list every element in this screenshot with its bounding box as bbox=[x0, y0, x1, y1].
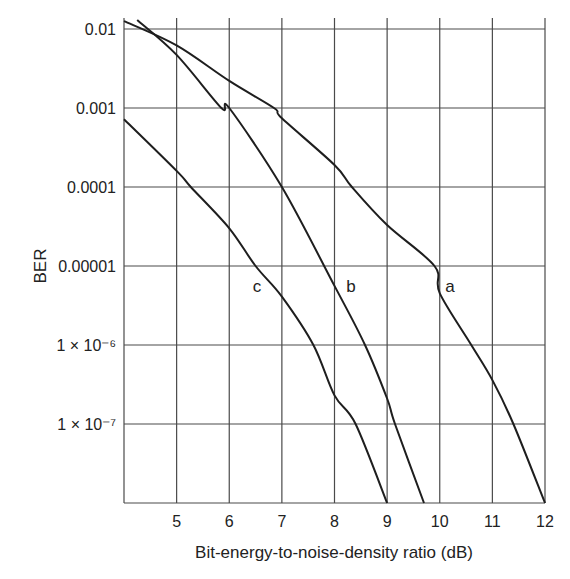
y-tick-label: 0.0001 bbox=[67, 179, 116, 196]
x-tick-label: 6 bbox=[225, 513, 234, 530]
curve-label-b: b bbox=[346, 277, 355, 296]
curve-label-c: c bbox=[253, 277, 262, 296]
x-tick-labels: 56789101112 bbox=[172, 513, 554, 530]
y-tick-label: 0.001 bbox=[76, 100, 116, 117]
curve-b bbox=[137, 20, 424, 503]
curve-label-a: a bbox=[445, 277, 455, 296]
grid bbox=[124, 18, 545, 503]
y-tick-label: 1 × 10⁻⁷ bbox=[57, 416, 116, 433]
y-axis-title: BER bbox=[31, 249, 50, 284]
x-tick-label: 12 bbox=[536, 513, 554, 530]
x-tick-label: 9 bbox=[383, 513, 392, 530]
x-tick-label: 5 bbox=[172, 513, 181, 530]
x-tick-label: 10 bbox=[431, 513, 449, 530]
ber-chart: 0.010.0010.00010.000011 × 10⁻⁶1 × 10⁻⁷ 5… bbox=[0, 0, 570, 579]
x-tick-label: 8 bbox=[330, 513, 339, 530]
y-tick-label: 0.01 bbox=[85, 21, 116, 38]
y-tick-label: 0.00001 bbox=[58, 258, 116, 275]
curve-labels: abc bbox=[253, 277, 456, 296]
y-tick-labels: 0.010.0010.00010.000011 × 10⁻⁶1 × 10⁻⁷ bbox=[56, 21, 116, 433]
x-tick-label: 11 bbox=[484, 513, 501, 530]
y-tick-label: 1 × 10⁻⁶ bbox=[56, 337, 116, 354]
x-tick-label: 7 bbox=[277, 513, 286, 530]
x-axis-title: Bit-energy-to-noise-density ratio (dB) bbox=[195, 543, 473, 562]
